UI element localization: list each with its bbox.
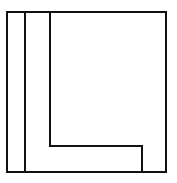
l-shape-outline xyxy=(50,12,142,172)
diagram-canvas xyxy=(0,0,177,183)
